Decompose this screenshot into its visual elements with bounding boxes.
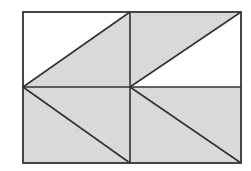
geometry-diagram <box>0 0 251 171</box>
